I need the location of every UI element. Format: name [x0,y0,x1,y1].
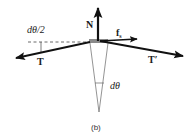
angle-label: dθ [110,80,120,91]
tension-left-arrow [16,42,90,58]
tension-left-label: T [37,56,44,67]
angle-wedge [90,43,108,112]
figure-caption: (b) [91,123,101,132]
half-angle-label: dθ/2 [27,24,45,35]
friction-label: fs [116,27,122,39]
tension-right-label: T′ [148,54,158,65]
tension-right-arrow [100,41,183,56]
rope-element-force-diagram: N fs T T′ dθ/2 dθ (b) [0,0,192,140]
normal-force-label: N [86,19,94,30]
